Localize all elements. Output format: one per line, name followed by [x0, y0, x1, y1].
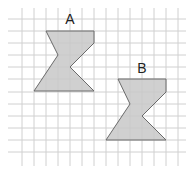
- grid-diagram: AB: [0, 0, 193, 173]
- shape-label-a: A: [65, 11, 75, 27]
- shape-label-b: B: [137, 60, 146, 76]
- shape-a: [34, 31, 94, 91]
- shape-b: [106, 79, 166, 140]
- grid-svg: AB: [0, 0, 193, 173]
- shapes: AB: [34, 11, 166, 140]
